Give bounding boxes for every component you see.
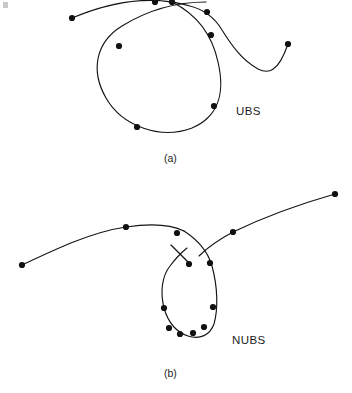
control-point-dot <box>285 41 291 47</box>
control-point-dot <box>174 230 180 236</box>
control-point-dot <box>152 0 158 5</box>
figure-b-label: NUBS <box>232 334 266 346</box>
figure-panel: UBS (a) NUBS (b) <box>0 0 352 393</box>
control-point-dot <box>123 224 129 230</box>
control-point-dot <box>116 43 122 49</box>
figure-a-label: UBS <box>236 105 261 117</box>
control-point-dot <box>166 325 172 331</box>
control-point-dot <box>69 15 75 21</box>
control-point-dot <box>208 32 214 38</box>
curve-path <box>22 225 184 265</box>
control-point-dot <box>207 260 213 266</box>
curve-layer <box>22 0 335 337</box>
control-point-dot <box>190 330 196 336</box>
control-point-dot <box>230 229 236 235</box>
curve-path <box>199 194 335 256</box>
control-point-dot <box>177 331 183 337</box>
bspline-figure-svg <box>0 0 352 393</box>
control-point-dot <box>332 191 338 197</box>
figure-b-caption: (b) <box>164 367 177 379</box>
control-point-dot <box>134 124 140 130</box>
control-point-dot <box>204 9 210 15</box>
control-point-dot <box>210 304 216 310</box>
control-point-dot <box>201 324 207 330</box>
control-point-dot <box>211 103 217 109</box>
figure-a-caption: (a) <box>164 152 177 164</box>
control-point-dot <box>169 0 175 5</box>
curve-path <box>97 2 221 132</box>
control-point-dot <box>186 261 192 267</box>
curve-path <box>72 0 288 71</box>
control-point-dot <box>161 305 167 311</box>
control-point-layer <box>19 0 338 337</box>
control-point-dot <box>19 262 25 268</box>
